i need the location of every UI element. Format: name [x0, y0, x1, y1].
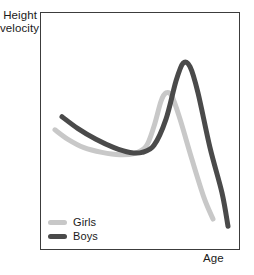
y-axis-label-line-1: Height — [0, 9, 37, 22]
y-axis-label: Height velocity — [0, 9, 37, 34]
height-velocity-chart: Height velocity Girls Boys Age — [0, 0, 254, 275]
legend-label-girls: Girls — [73, 216, 96, 228]
legend: Girls Boys — [48, 216, 98, 244]
y-axis-label-line-2: velocity — [0, 22, 37, 35]
legend-swatch-girls — [48, 220, 67, 225]
legend-label-boys: Boys — [73, 230, 98, 242]
x-axis-label: Age — [203, 252, 224, 265]
plot-curves — [40, 12, 240, 250]
legend-item-boys: Boys — [48, 230, 98, 242]
legend-item-girls: Girls — [48, 216, 98, 228]
series-line-girls — [55, 93, 213, 220]
legend-swatch-boys — [48, 234, 67, 239]
